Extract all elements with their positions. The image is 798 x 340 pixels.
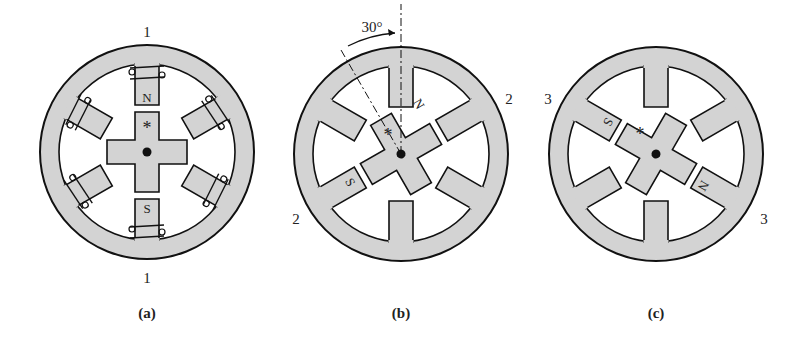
caption-a: (a) [138,305,156,322]
phase-label-top: 1 [143,24,151,40]
phase-label-bottom: 1 [143,270,151,286]
stepper-motor-diagram: N S * 1 1 (a) N S * 30° 2 2 (b) [0,0,798,340]
caption-c: (c) [648,305,665,322]
phase-label-lower-right: 3 [760,211,768,227]
rotor-marker: * [143,118,152,138]
rotor-marker: * [384,125,393,145]
panel-b: N S * [294,4,508,261]
phase-label-upper-left: 3 [544,91,552,107]
rotor-marker: * [636,124,645,144]
phase-label-lower-left: 2 [292,211,300,227]
rotor-north-label: N [142,90,152,105]
rotor-south-label: S [143,201,150,216]
phase-label-upper-right: 2 [505,91,513,107]
caption-b: (b) [392,305,410,322]
panel-a: N S * [40,45,254,259]
angle-annotation: 30° [362,19,383,35]
panel-c: S N * [549,47,763,261]
